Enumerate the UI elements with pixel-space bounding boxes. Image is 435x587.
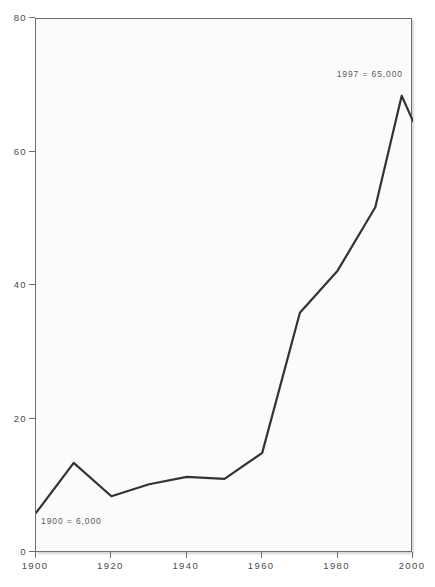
x-axis-tick-mark (35, 552, 36, 558)
x-axis-tick-label: 2000 (382, 560, 435, 571)
x-axis-tick-mark (337, 552, 338, 558)
x-axis-tick-mark (110, 552, 111, 558)
x-axis-tick-label: 1980 (307, 560, 367, 571)
x-axis-tick-label: 1900 (5, 560, 65, 571)
x-axis-tick-mark (186, 552, 187, 558)
x-axis-tick-mark (412, 552, 413, 558)
chart-figure: 1997 = 65,000 1900 = 6,000 020406080 190… (0, 0, 435, 587)
x-axis: 190019201940196019802000 (0, 0, 435, 587)
x-axis-tick-label: 1940 (156, 560, 216, 571)
x-axis-tick-label: 1960 (231, 560, 291, 571)
x-axis-tick-label: 1920 (80, 560, 140, 571)
x-axis-tick-mark (261, 552, 262, 558)
